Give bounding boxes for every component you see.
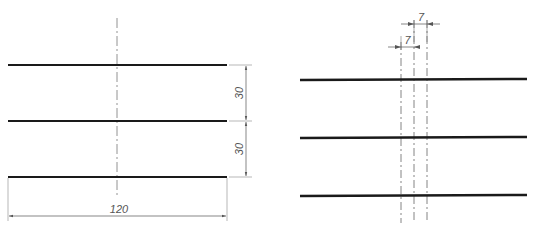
right-drawing: 7 7 (300, 11, 527, 223)
dimension-label-7-lower: 7 (404, 34, 411, 46)
left-drawing: 30 30 120 (8, 18, 252, 221)
object-line-top (300, 79, 527, 80)
object-line-bottom (300, 195, 527, 196)
dimension-label-30-bottom: 30 (233, 142, 245, 155)
object-line-middle (300, 137, 527, 138)
dimension-label-30-top: 30 (233, 86, 245, 99)
technical-drawing-canvas: 30 30 120 7 7 (0, 0, 535, 235)
dimension-label-7-top: 7 (418, 11, 425, 23)
dimension-label-120: 120 (110, 203, 129, 215)
